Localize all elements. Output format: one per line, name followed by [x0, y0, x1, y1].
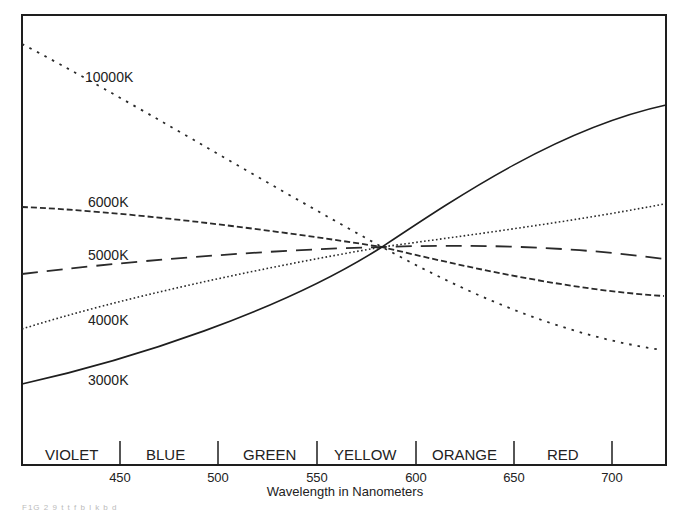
- label-10000k: 10000K: [85, 69, 134, 85]
- curve-4000k: [22, 204, 664, 329]
- figure-caption: F1G 2 9 t t f b l k b d: [22, 503, 117, 512]
- band-violet: VIOLET: [45, 446, 98, 463]
- curve-3000k: [22, 105, 666, 384]
- band-red: RED: [547, 446, 579, 463]
- spectral-power-chart: 10000K 6000K 5000K 4000K 3000K VIOLET BL…: [0, 0, 677, 518]
- x-axis-title: Wavelength in Nanometers: [267, 484, 424, 499]
- tick-700: 700: [601, 470, 623, 485]
- band-yellow: YELLOW: [334, 446, 397, 463]
- label-5000k: 5000K: [88, 247, 129, 263]
- tick-450: 450: [109, 470, 131, 485]
- tick-650: 650: [503, 470, 525, 485]
- band-blue: BLUE: [146, 446, 185, 463]
- band-orange: ORANGE: [432, 446, 497, 463]
- label-3000k: 3000K: [88, 372, 129, 388]
- band-green: GREEN: [243, 446, 296, 463]
- tick-500: 500: [207, 470, 229, 485]
- tick-550: 550: [306, 470, 328, 485]
- label-6000k: 6000K: [88, 194, 129, 210]
- label-4000k: 4000K: [88, 312, 129, 328]
- tick-600: 600: [405, 470, 427, 485]
